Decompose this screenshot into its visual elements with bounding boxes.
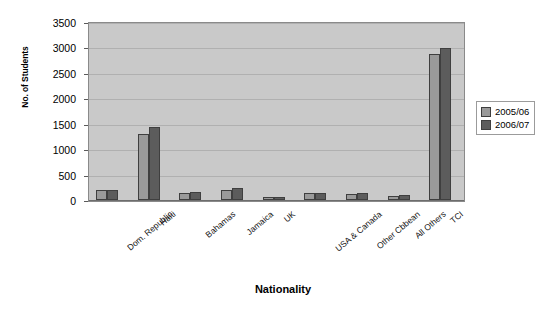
x-axis-category-label: Other Cbbean bbox=[374, 209, 421, 251]
bar-group bbox=[131, 22, 173, 200]
legend-swatch-icon bbox=[481, 120, 491, 130]
y-axis-tick-label: 3000 bbox=[53, 43, 76, 53]
x-axis-title: Nationality bbox=[188, 283, 378, 295]
bar-group bbox=[89, 22, 131, 200]
y-axis-tick-label: 2500 bbox=[53, 69, 76, 79]
y-axis-tick-labels: 0500100015002000250030003500 bbox=[0, 0, 84, 224]
bar-group bbox=[256, 22, 298, 200]
page-caption-strip bbox=[12, 303, 432, 313]
bar-group bbox=[172, 22, 214, 200]
x-axis-category-label: Dom. Republic bbox=[125, 209, 174, 252]
bar-series-1 bbox=[179, 193, 190, 200]
bar-series-2 bbox=[190, 192, 201, 200]
y-axis-tick-label: 1500 bbox=[53, 120, 76, 130]
y-axis-tick-label: 3500 bbox=[53, 18, 76, 28]
y-axis-tick-label: 2000 bbox=[53, 94, 76, 104]
bar-series-1 bbox=[221, 190, 232, 200]
bar-group bbox=[339, 22, 381, 200]
legend-item: 2006/07 bbox=[481, 118, 529, 131]
x-axis-category-label: Jamaica bbox=[244, 209, 275, 237]
legend-swatch-icon bbox=[481, 107, 491, 117]
plot-area bbox=[88, 22, 465, 202]
bar-group bbox=[422, 22, 464, 200]
bar-series-2 bbox=[232, 188, 243, 200]
y-axis-tick-label: 500 bbox=[58, 171, 76, 181]
legend: 2005/062006/07 bbox=[476, 101, 535, 135]
bar-group bbox=[214, 22, 256, 200]
x-axis-category-label: UK bbox=[281, 209, 296, 224]
bar-series-2 bbox=[440, 48, 451, 200]
bar-series-2 bbox=[107, 190, 118, 200]
x-axis-category-label: TCI bbox=[449, 209, 466, 225]
x-axis-category-label: Bahamas bbox=[204, 209, 238, 240]
bar-chart: No. of Students 050010001500200025003000… bbox=[0, 0, 560, 313]
bar-series-2 bbox=[357, 193, 368, 200]
bar-series-1 bbox=[138, 134, 149, 200]
bar-series-1 bbox=[429, 54, 440, 200]
x-axis-category-label: USA & Canada bbox=[334, 209, 384, 253]
x-axis-category-label: Haiti bbox=[158, 209, 177, 228]
bar-group bbox=[297, 22, 339, 200]
bar-series-1 bbox=[96, 190, 107, 200]
y-axis-tick-label: 0 bbox=[70, 196, 76, 206]
bar-group bbox=[381, 22, 423, 200]
x-axis-category-label: All Others bbox=[412, 209, 447, 241]
bar-series-1 bbox=[304, 193, 315, 200]
bars-layer bbox=[89, 23, 464, 201]
bar-series-2 bbox=[149, 127, 160, 200]
bar-series-2 bbox=[315, 193, 326, 200]
legend-label: 2005/06 bbox=[495, 106, 529, 117]
legend-item: 2005/06 bbox=[481, 105, 529, 118]
legend-label: 2006/07 bbox=[495, 119, 529, 130]
y-axis-tick-label: 1000 bbox=[53, 145, 76, 155]
x-axis-line bbox=[89, 200, 464, 201]
